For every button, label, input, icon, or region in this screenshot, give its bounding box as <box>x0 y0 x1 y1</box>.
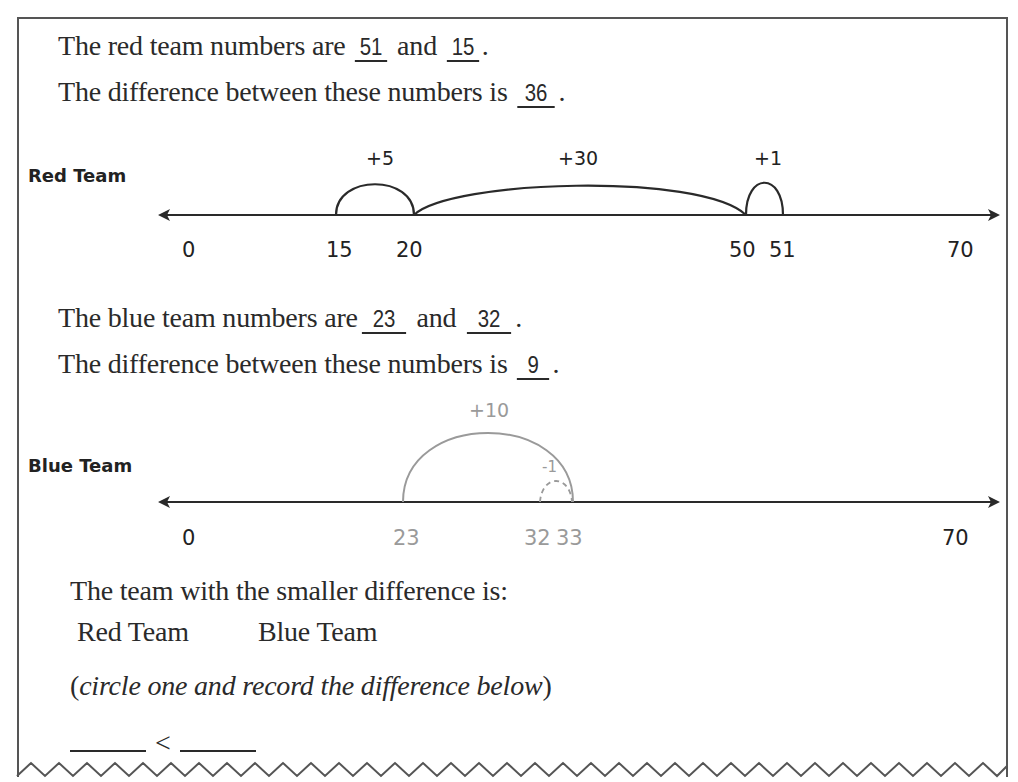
jump-label-plus10: +10 <box>469 399 509 421</box>
sentence-text: The difference between these numbers is <box>58 348 514 379</box>
blue-team-label: Blue Team <box>28 455 132 476</box>
red-number-a: 51 <box>355 34 387 62</box>
tick-label: 23 <box>393 526 420 550</box>
instruction-italic: circle one and record the difference bel… <box>79 670 542 701</box>
tick-label: 15 <box>326 238 353 262</box>
red-numbers-sentence: The red team numbers are 51 and 15. <box>58 30 489 62</box>
blue-number-line <box>158 433 1000 508</box>
blue-numbers-sentence: The blue team numbers are23 and 32. <box>58 302 522 334</box>
tick-label: 0 <box>182 238 195 262</box>
jump-arc-minus1 <box>540 481 572 502</box>
sentence-text: . <box>482 30 489 61</box>
blue-number-b: 32 <box>467 306 511 334</box>
instruction-text: (circle one and record the difference be… <box>70 670 552 702</box>
sentence-text: The red team numbers are <box>58 30 352 61</box>
sentence-text: and <box>410 302 463 333</box>
tick-label: 50 <box>729 238 756 262</box>
jump-arc-plus5 <box>336 184 414 215</box>
sentence-text: . <box>515 302 522 333</box>
conclusion-prompt: The team with the smaller difference is: <box>70 575 508 607</box>
tick-label: 20 <box>396 238 423 262</box>
sentence-text: . <box>558 76 565 107</box>
zigzag-edge <box>17 763 1007 776</box>
tick-label: 70 <box>942 526 969 550</box>
paren: ( <box>70 670 79 701</box>
jump-arc-plus1 <box>746 183 783 215</box>
red-number-b: 15 <box>447 34 479 62</box>
option-blue-team[interactable]: Blue Team <box>258 616 377 648</box>
tick-label: 32 <box>524 526 551 550</box>
tick-label: 0 <box>182 526 195 550</box>
red-team-label: Red Team <box>28 165 126 186</box>
blue-difference-value: 9 <box>517 352 549 380</box>
blue-difference-sentence: The difference between these numbers is … <box>58 348 559 380</box>
tick-label: 70 <box>947 238 974 262</box>
jump-label-plus5: +5 <box>366 147 394 169</box>
jump-label-plus30: +30 <box>558 147 598 169</box>
sentence-text: The blue team numbers are <box>58 302 358 333</box>
tick-label: 51 <box>769 238 796 262</box>
jump-label-plus1: +1 <box>754 147 782 169</box>
answer-blank-right[interactable] <box>180 750 256 752</box>
sentence-text: The difference between these numbers is <box>58 76 514 107</box>
red-difference-value: 36 <box>518 80 555 108</box>
tick-label: 33 <box>556 526 583 550</box>
red-number-line <box>158 183 1000 221</box>
jump-label-minus1: -1 <box>542 458 557 476</box>
less-than-symbol: < <box>155 727 171 759</box>
number-lines-graphic <box>0 0 1018 782</box>
jump-arc-plus30 <box>414 186 746 215</box>
sentence-text: and <box>390 30 443 61</box>
blue-number-a: 23 <box>362 306 406 334</box>
sentence-text: . <box>552 348 559 379</box>
paren: ) <box>542 670 551 701</box>
red-difference-sentence: The difference between these numbers is … <box>58 76 565 108</box>
option-red-team[interactable]: Red Team <box>77 616 189 648</box>
answer-blank-left[interactable] <box>70 750 146 752</box>
